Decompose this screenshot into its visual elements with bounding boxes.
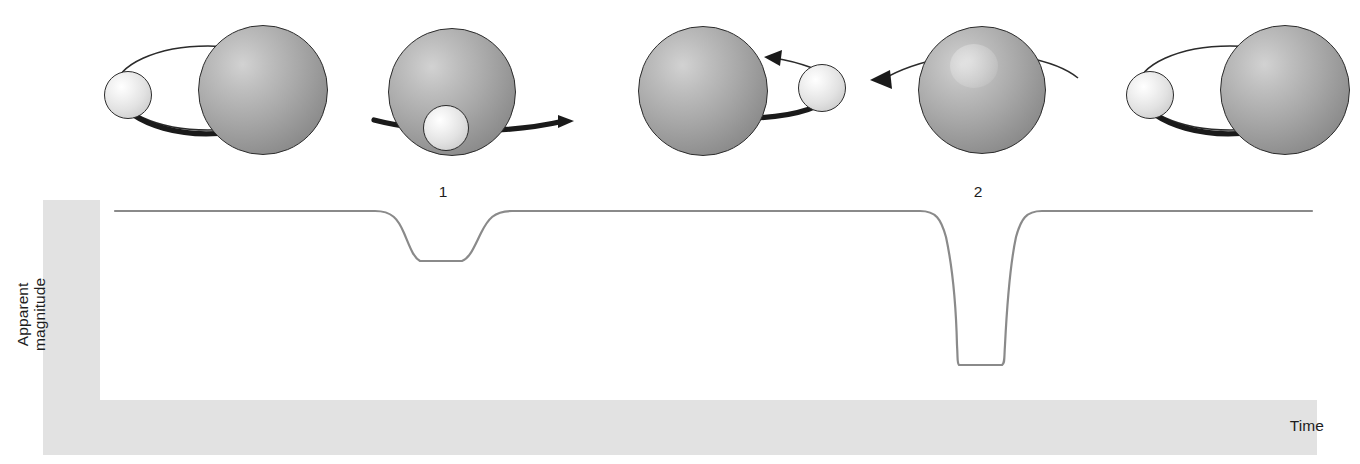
small-star-1 [104, 71, 152, 119]
large-star-5 [1220, 25, 1350, 155]
orbit-panel-row [0, 0, 1360, 185]
light-curve-chart: Apparent magnitude Time 1 2 [0, 185, 1360, 464]
small-star-2 [423, 105, 469, 151]
large-star-1 [198, 25, 328, 155]
orbit-panel-2 [368, 0, 608, 185]
eclipse-label-1: 1 [439, 183, 448, 201]
orbit-panel-5 [1118, 0, 1360, 185]
orbit-panel-3 [630, 0, 865, 185]
figure-root: Apparent magnitude Time 1 2 [0, 0, 1360, 464]
eclipse-label-2: 2 [974, 183, 983, 201]
small-star-3 [798, 64, 846, 112]
small-star-5 [1126, 71, 1174, 119]
orbit-panel-4 [860, 0, 1095, 185]
occulted-small-star-4 [950, 44, 998, 88]
large-star-3 [638, 26, 768, 156]
light-curve-line [0, 185, 1360, 464]
orbit-panel-1 [90, 0, 325, 185]
